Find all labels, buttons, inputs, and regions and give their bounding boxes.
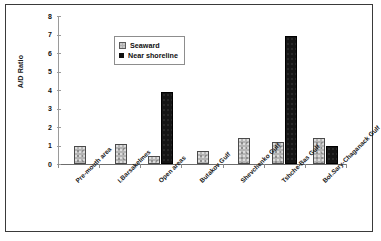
x-axis-tick	[58, 164, 59, 168]
y-axis-tick-label: 2	[36, 124, 52, 131]
y-axis-tick	[57, 72, 61, 73]
y-axis-tick	[57, 127, 61, 128]
bar-chart: A/D Ratio 012345678 Pre-mouth areaI.Bars…	[6, 5, 374, 233]
y-axis-tick	[57, 16, 61, 17]
x-axis-tick	[140, 164, 141, 168]
near-shoreline-swatch-icon	[119, 53, 124, 58]
legend-item-near-shoreline: Near shoreline	[119, 51, 178, 60]
y-axis-tick-label: 6	[36, 50, 52, 57]
y-axis-tick	[57, 90, 61, 91]
plot-area: 012345678 Pre-mouth areaI.BarsakelmesOpe…	[58, 16, 346, 164]
x-axis-tick	[305, 164, 306, 168]
legend-label-seaward: Seaward	[130, 42, 160, 50]
bar-seaward	[197, 151, 209, 164]
seaward-swatch-icon	[119, 42, 126, 49]
x-axis-tick	[223, 164, 224, 168]
bar-near-shoreline	[326, 146, 338, 165]
y-axis-tick-label: 7	[36, 31, 52, 38]
legend-label-near-shoreline: Near shoreline	[128, 52, 178, 60]
y-axis-tick	[57, 35, 61, 36]
figure-frame: A/D Ratio 012345678 Pre-mouth areaI.Bars…	[5, 4, 373, 232]
y-axis-tick-label: 4	[36, 87, 52, 94]
x-axis-tick	[264, 164, 265, 168]
bar-near-shoreline	[161, 92, 173, 164]
chart-legend: Seaward Near shoreline	[114, 36, 185, 65]
y-axis-tick-label: 0	[36, 161, 52, 168]
y-axis-tick	[57, 146, 61, 147]
bar-seaward	[74, 146, 86, 165]
bar-seaward	[148, 156, 160, 164]
y-axis-title: A/D Ratio	[16, 42, 25, 102]
bar-near-shoreline	[285, 36, 297, 164]
legend-item-seaward: Seaward	[119, 41, 178, 50]
bar-seaward	[238, 138, 250, 164]
x-axis-tick	[99, 164, 100, 168]
x-axis-tick	[346, 164, 347, 168]
y-axis-tick-label: 5	[36, 68, 52, 75]
bar-seaward	[115, 144, 127, 164]
y-axis-tick-label: 8	[36, 13, 52, 20]
x-axis-tick	[181, 164, 182, 168]
y-axis-tick	[57, 109, 61, 110]
y-axis-tick-label: 1	[36, 142, 52, 149]
y-axis-tick-label: 3	[36, 105, 52, 112]
y-axis-tick	[57, 53, 61, 54]
